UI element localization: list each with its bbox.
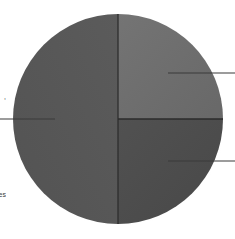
pie-chart: , es bbox=[0, 0, 235, 239]
pie-label-secondary: es bbox=[0, 190, 6, 199]
pie-slice-b bbox=[118, 119, 223, 224]
pie-slice-a bbox=[118, 14, 223, 119]
pie-chart-canvas bbox=[0, 0, 235, 239]
pie-label-slice-c: , bbox=[0, 92, 6, 101]
